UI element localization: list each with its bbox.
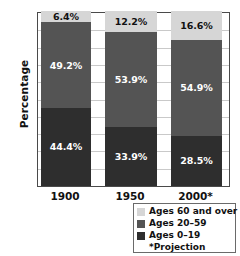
bar-segment-ages-20-59[interactable]: 49.2% — [41, 22, 91, 108]
bar-segment-label: 49.2% — [50, 61, 82, 71]
plot-area: 44.4% 49.2% 6.4% 33.9% 53.9% 12.2% — [37, 12, 230, 187]
bar-segment-label: 33.9% — [115, 152, 147, 162]
bar-segment-ages-20-59[interactable]: 54.9% — [171, 40, 222, 136]
legend-label: Ages 60 and over — [149, 207, 237, 216]
bar-segment-label: 12.2% — [115, 17, 147, 27]
bar-segment-ages-0-19[interactable]: 28.5% — [171, 136, 222, 186]
legend-swatch-icon — [137, 208, 145, 216]
legend-swatch-icon — [137, 220, 145, 228]
bar-segment-label: 54.9% — [180, 83, 212, 93]
bar-segment-ages-60-over[interactable]: 6.4% — [41, 11, 91, 22]
chart-root: Percentage 100 90 80 70 60 50 40 30 20 1… — [0, 0, 240, 256]
x-tick-label-2000: 2000* — [170, 190, 221, 202]
bar-segment-label: 28.5% — [180, 156, 212, 166]
legend-item-ages-60-over[interactable]: Ages 60 and over — [137, 206, 235, 217]
legend-label: Ages 0–19 — [149, 231, 200, 240]
bar-segment-ages-60-over[interactable]: 16.6% — [171, 11, 222, 40]
legend: Ages 60 and over Ages 20–59 Ages 0–19 *P… — [133, 203, 236, 253]
bar-segment-label: 44.4% — [50, 142, 82, 152]
x-tick-label-1900: 1900 — [40, 190, 90, 202]
bar-segment-label: 53.9% — [115, 75, 147, 85]
bar-segment-ages-60-over[interactable]: 12.2% — [105, 11, 157, 32]
legend-swatch-icon — [137, 232, 145, 240]
bar-segment-label: 6.4% — [53, 12, 79, 22]
bar-segment-ages-20-59[interactable]: 53.9% — [105, 32, 157, 126]
legend-item-ages-20-59[interactable]: Ages 20–59 — [137, 218, 235, 229]
legend-label: Ages 20–59 — [149, 219, 207, 228]
bar-segment-ages-0-19[interactable]: 44.4% — [41, 108, 91, 186]
legend-item-ages-0-19[interactable]: Ages 0–19 — [137, 230, 235, 241]
x-tick-label-1950: 1950 — [104, 190, 156, 202]
y-axis-title: Percentage — [18, 24, 30, 164]
bar-2000[interactable]: 28.5% 54.9% 16.6% — [171, 13, 222, 186]
bar-1950[interactable]: 33.9% 53.9% 12.2% — [105, 13, 157, 186]
legend-footnote: *Projection — [149, 242, 235, 252]
bar-1900[interactable]: 44.4% 49.2% 6.4% — [41, 13, 91, 186]
bar-segment-label: 16.6% — [180, 21, 212, 31]
bar-segment-ages-0-19[interactable]: 33.9% — [105, 127, 157, 186]
